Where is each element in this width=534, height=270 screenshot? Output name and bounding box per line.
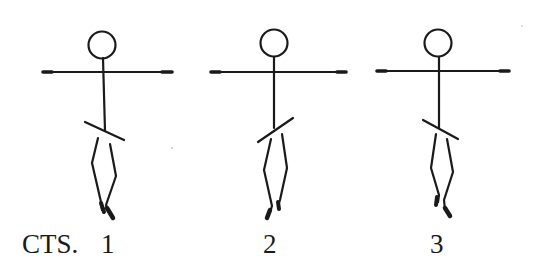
hips [258, 118, 293, 142]
count-1: 1 [101, 231, 115, 258]
count-3: 3 [430, 231, 444, 258]
counts-label: CTS. [22, 231, 78, 258]
leg-left [92, 138, 102, 210]
leg-right [444, 139, 453, 210]
stick-figure-1 [43, 32, 172, 219]
scan-speck [521, 25, 522, 26]
hips [423, 120, 458, 139]
dance-diagram: CTS. 1 2 3 [0, 0, 534, 270]
count-2: 2 [263, 231, 277, 258]
foot-left [267, 210, 270, 218]
head-icon [425, 30, 452, 57]
foot-right [107, 208, 113, 218]
foot-right [445, 208, 450, 216]
head-icon [261, 30, 288, 57]
spine [103, 58, 105, 131]
leg-left [264, 139, 272, 212]
stick-figure-2 [211, 30, 346, 219]
scan-speck [171, 147, 172, 148]
leg-right [106, 144, 116, 214]
foot-left [436, 197, 437, 205]
stick-figure-3 [377, 30, 509, 217]
head-icon [89, 32, 116, 59]
leg-left [431, 134, 439, 202]
foot-right [278, 202, 279, 209]
leg-right [278, 134, 287, 206]
foot-left [101, 203, 104, 212]
